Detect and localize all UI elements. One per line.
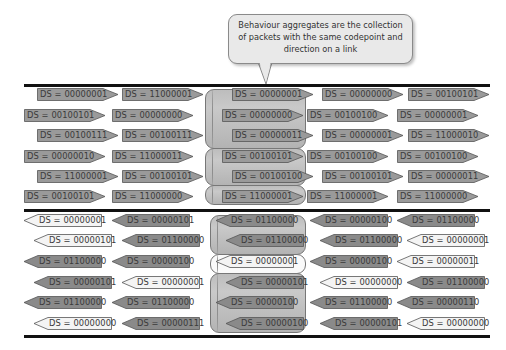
packet-arrow-right: DS = 11000000	[397, 190, 478, 203]
ds-codepoint-label: DS = 11000011	[115, 150, 182, 163]
packet-arrow-left: DS = 01100000	[226, 234, 304, 247]
packet-arrow-right: DS = 00100101	[222, 150, 303, 163]
ds-codepoint-label: DS = 11000001	[40, 170, 107, 183]
ds-codepoint-label: DS = 01100000	[412, 214, 479, 227]
ds-codepoint-label: DS = 01100000	[39, 296, 106, 309]
packet-arrow-left: DS = 00000100	[112, 255, 190, 268]
ds-codepoint-label: DS = 11000001	[225, 190, 292, 203]
packet-arrow-right: DS = 00000010	[24, 150, 105, 163]
ds-codepoint-label: DS = 00100101	[411, 88, 478, 101]
ds-codepoint-label: DS = 00000000	[225, 109, 292, 122]
packet-arrow-right: DS = 11000001	[122, 88, 203, 101]
packet-arrow-right: DS = 00000000	[222, 109, 303, 122]
bottom-link-lower-line	[24, 335, 490, 338]
ds-codepoint-label: DS = 01100000	[137, 234, 204, 247]
packet-arrow-right: DS = 11000011	[112, 150, 193, 163]
ds-codepoint-label: DS = 00000101	[335, 317, 402, 330]
ds-codepoint-label: DS = 01100000	[39, 255, 106, 268]
packet-arrow-right: DS = 00100111	[37, 129, 118, 142]
ds-codepoint-label: DS = 00100100	[310, 150, 377, 163]
ds-codepoint-label: DS = 00000100	[325, 214, 392, 227]
packet-arrow-left: DS = 01100000	[24, 255, 102, 268]
packet-arrow-left: DS = 01100000	[24, 296, 102, 309]
packet-arrow-left: DS = 01100000	[320, 234, 398, 247]
ds-codepoint-label: DS = 00000000	[115, 109, 182, 122]
packet-arrow-left: DS = 01100000	[216, 214, 294, 227]
ds-codepoint-label: DS = 00000101	[49, 276, 116, 289]
packet-arrow-left: DS = 01100000	[112, 296, 190, 309]
ds-codepoint-label: DS = 00100100	[310, 109, 377, 122]
ds-codepoint-label: DS = 00100111	[125, 129, 192, 142]
ds-codepoint-label: DS = 00000011	[235, 129, 302, 142]
ds-codepoint-label: DS = 00100101	[27, 190, 94, 203]
ds-codepoint-label: DS = 00100100	[400, 150, 467, 163]
ds-codepoint-label: DS = 00000001	[400, 109, 467, 122]
ds-codepoint-label: DS = 00100111	[40, 129, 107, 142]
ds-codepoint-label: DS = 00000000	[49, 317, 116, 330]
ds-codepoint-label: DS = 11000010	[411, 129, 478, 142]
packet-arrow-left: DS = 00000101	[320, 317, 398, 330]
packet-arrow-right: DS = 00000001	[232, 88, 313, 101]
ds-codepoint-label: DS = 00100101	[225, 150, 292, 163]
ds-codepoint-label: DS = 01100000	[325, 296, 392, 309]
packet-arrow-left: DS = 00000001	[24, 214, 102, 227]
ds-codepoint-label: DS = 00000100	[241, 317, 308, 330]
ds-codepoint-label: DS = 11000001	[125, 88, 192, 101]
callout-line-2: of packets with the same codepoint and	[229, 31, 412, 43]
ds-codepoint-label: DS = 00000100	[325, 255, 392, 268]
ds-codepoint-label: DS = 01100000	[241, 234, 308, 247]
ds-codepoint-label: DS = 11000000	[400, 190, 467, 203]
callout-line-1: Behaviour aggregates are the collection	[229, 19, 412, 31]
packet-arrow-left: DS = 00000001	[122, 276, 200, 289]
ds-codepoint-label: DS = 00000110	[412, 296, 479, 309]
ds-codepoint-label: DS = 00000101	[241, 276, 308, 289]
packet-arrow-right: DS = 11000001	[307, 190, 388, 203]
ds-codepoint-label: DS = 00000101	[49, 234, 116, 247]
packet-arrow-left: DS = 00000101	[226, 276, 304, 289]
packet-arrow-right: DS = 00100100	[307, 150, 388, 163]
ds-codepoint-label: DS = 00000011	[411, 170, 478, 183]
packet-arrow-right: DS = 00100100	[232, 170, 313, 183]
ds-codepoint-label: DS = 00000000	[335, 276, 402, 289]
ds-codepoint-label: DS = 00000000	[325, 88, 392, 101]
ds-codepoint-label: DS = 00000001	[137, 276, 204, 289]
ds-codepoint-label: DS = 00000000	[422, 317, 489, 330]
packet-arrow-left: DS = 00000111	[122, 317, 200, 330]
behaviour-aggregate-callout: Behaviour aggregates are the collection …	[228, 14, 413, 64]
link-divider-line	[24, 209, 490, 212]
packet-arrow-right: DS = 00000001	[322, 129, 403, 142]
packet-arrow-right: DS = 00100100	[397, 150, 478, 163]
packet-arrow-left: DS = 00000100	[226, 317, 304, 330]
ds-codepoint-label: DS = 01100000	[422, 276, 489, 289]
packet-arrow-left: DS = 00000011	[397, 255, 475, 268]
ds-codepoint-label: DS = 11000000	[115, 190, 182, 203]
ds-codepoint-label: DS = 00000001	[231, 255, 298, 268]
packet-arrow-left: DS = 00000000	[34, 317, 112, 330]
packet-arrow-left: DS = 00000100	[216, 296, 294, 309]
ds-codepoint-label: DS = 01100000	[231, 214, 298, 227]
ds-codepoint-label: DS = 00000001	[39, 214, 106, 227]
ds-codepoint-label: DS = 00000001	[325, 129, 392, 142]
packet-arrow-right: DS = 00000001	[397, 109, 478, 122]
packet-arrow-right: DS = 00000011	[232, 129, 313, 142]
packet-arrow-left: DS = 00000101	[34, 276, 112, 289]
ds-codepoint-label: DS = 00000011	[412, 255, 479, 268]
ds-codepoint-label: DS = 00000111	[137, 317, 204, 330]
ds-codepoint-label: DS = 00000001	[40, 88, 107, 101]
callout-line-3: direction on a link	[229, 43, 412, 55]
packet-arrow-right: DS = 00100101	[322, 170, 403, 183]
packet-arrow-left: DS = 00000000	[320, 276, 398, 289]
packet-arrow-left: DS = 00000101	[34, 234, 112, 247]
ds-codepoint-label: DS = 00100100	[235, 170, 302, 183]
ds-codepoint-label: DS = 00000001	[235, 88, 302, 101]
packet-arrow-left: DS = 00000001	[407, 234, 485, 247]
packet-arrow-left: DS = 01100000	[310, 296, 388, 309]
top-link-upper-line	[24, 84, 490, 87]
packet-arrow-left: DS = 00000000	[407, 317, 485, 330]
ds-codepoint-label: DS = 00000100	[231, 296, 298, 309]
ds-codepoint-label: DS = 11000001	[310, 190, 377, 203]
packet-arrow-left: DS = 00000101	[112, 214, 190, 227]
packet-arrow-right: DS = 11000001	[37, 170, 118, 183]
ds-codepoint-label: DS = 01100000	[127, 296, 194, 309]
packet-arrow-right: DS = 00000000	[112, 109, 193, 122]
